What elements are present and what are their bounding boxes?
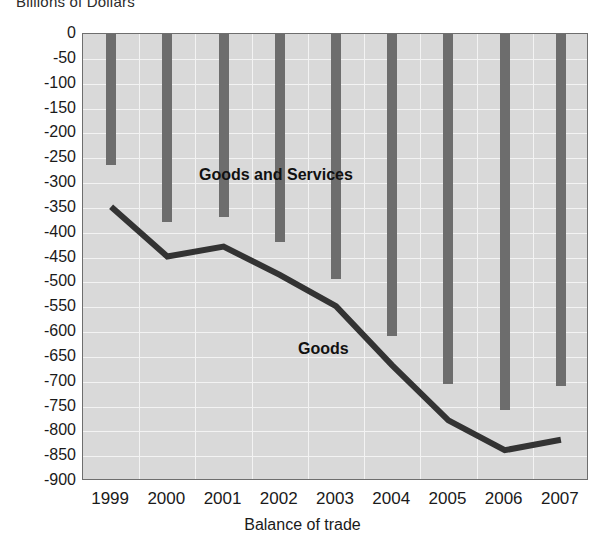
x-tick-label-2005: 2005 [429,489,467,509]
y-tick-label: -550 [4,297,76,315]
plot-area: Goods and Services Goods [82,33,588,480]
series-annotation-goods-and-services: Goods and Services [199,166,353,184]
x-tick-label-2003: 2003 [316,489,354,509]
y-tick-label: -600 [4,322,76,340]
y-tick-label: -200 [4,123,76,141]
goods-polyline [111,207,561,450]
y-tick-label: -850 [4,446,76,464]
y-tick-label: -300 [4,173,76,191]
y-tick-label: -900 [4,471,76,489]
x-tick-label-2000: 2000 [147,489,185,509]
y-tick-label: 0 [4,24,76,42]
y-tick-label: -500 [4,272,76,290]
y-tick-label: -450 [4,248,76,266]
y-tick-label: -400 [4,223,76,241]
y-tick-label: -100 [4,74,76,92]
y-tick-label: -650 [4,347,76,365]
y-tick-label: -800 [4,421,76,439]
series-annotation-goods: Goods [298,340,349,358]
y-axis-tick-labels: 0-50-100-150-200-250-300-350-400-450-500… [0,0,76,548]
y-tick-label: -150 [4,99,76,117]
y-tick-label: -350 [4,198,76,216]
x-tick-label-2007: 2007 [541,489,579,509]
y-tick-label: -750 [4,397,76,415]
y-tick-label: -250 [4,148,76,166]
x-tick-label-2006: 2006 [485,489,523,509]
x-tick-label-2001: 2001 [204,489,242,509]
x-axis-title: Balance of trade [0,516,605,534]
y-tick-label: -50 [4,49,76,67]
balance-of-trade-chart: Billions of Dollars 0-50-100-150-200-250… [0,0,605,548]
x-tick-label-2002: 2002 [260,489,298,509]
line-series-goods [83,34,588,480]
x-tick-label-2004: 2004 [372,489,410,509]
x-tick-label-1999: 1999 [91,489,129,509]
y-tick-label: -700 [4,372,76,390]
